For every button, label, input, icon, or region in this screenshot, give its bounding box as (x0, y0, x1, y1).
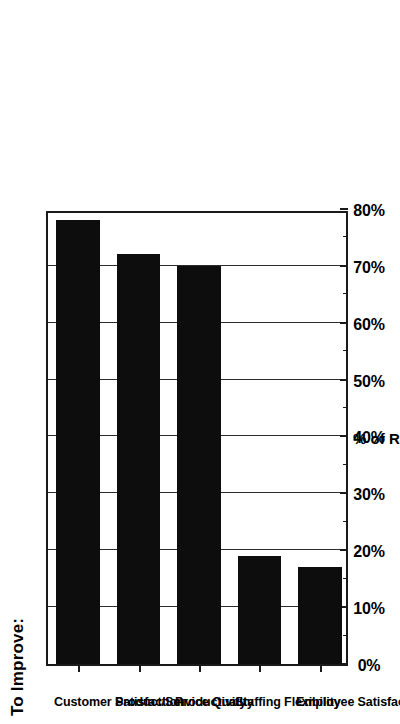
value-axis-label: 50% (353, 373, 384, 391)
value-axis-tick (340, 492, 348, 494)
category-axis-tick (199, 664, 201, 672)
chart-title: To Improve: (8, 618, 28, 716)
category-axis-tick (78, 664, 80, 672)
value-axis-tick (340, 208, 348, 210)
value-axis-minor-tick (343, 578, 348, 579)
value-axis-minor-tick (343, 350, 348, 351)
bar-chart-figure: To Improve: 0%10%20%30%40%50%60%70%80% %… (0, 0, 400, 724)
value-axis-tick (340, 322, 348, 324)
category-label: Staffing Flexibility (235, 695, 279, 709)
value-axis-label: 20% (353, 543, 384, 561)
category-label: Product/Service Quality (115, 695, 159, 709)
bar (56, 220, 99, 664)
value-axis-minor-tick (343, 635, 348, 636)
category-axis-tick (320, 664, 322, 672)
value-axis-minor-tick (343, 464, 348, 465)
value-axis-label: 60% (353, 316, 384, 334)
plot-area (46, 211, 348, 666)
category-label: Productivity (175, 695, 219, 709)
category-label: Customer Satisfaction (54, 695, 98, 709)
value-axis-minor-tick (343, 521, 348, 522)
value-axis-minor-tick (343, 293, 348, 294)
value-axis-tick (340, 436, 348, 438)
bar (117, 255, 160, 665)
value-axis-label: 80% (353, 202, 384, 220)
value-axis-label: 0% (358, 657, 381, 675)
value-axis-tick (340, 379, 348, 381)
bar (177, 266, 220, 664)
category-label: Employee Satisfaction/Morale (296, 695, 340, 709)
chart-page: To Improve: 0%10%20%30%40%50%60%70%80% %… (0, 0, 400, 724)
value-axis-label: 10% (353, 600, 384, 618)
value-axis-label: 70% (353, 259, 384, 277)
category-axis-tick (259, 664, 261, 672)
value-axis-minor-tick (343, 236, 348, 237)
category-axis-tick (139, 664, 141, 672)
bar (298, 567, 341, 664)
value-axis-label: 30% (353, 486, 384, 504)
value-axis-tick (340, 265, 348, 267)
bar (238, 556, 281, 664)
value-axis-tick (340, 549, 348, 551)
value-axis-minor-tick (343, 407, 348, 408)
value-axis-title: % of Respondents (353, 430, 400, 447)
